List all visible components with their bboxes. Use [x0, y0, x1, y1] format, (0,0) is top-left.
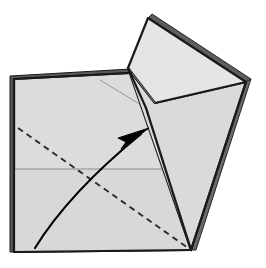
origami-diagram-root — [0, 0, 266, 268]
origami-diagram-canvas — [0, 0, 266, 268]
